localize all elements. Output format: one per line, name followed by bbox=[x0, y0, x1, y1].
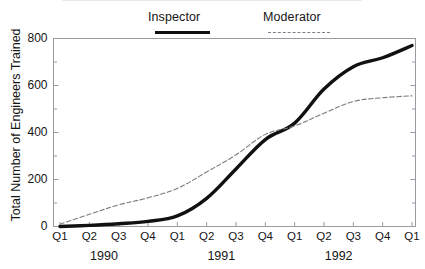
x-axis-year-label: 1990 bbox=[74, 249, 134, 263]
x-tick-label: Q4 bbox=[135, 230, 161, 242]
y-tick-label: 600 bbox=[8, 78, 48, 92]
legend-label-inspector: Inspector bbox=[148, 10, 200, 24]
x-tick-label: Q2 bbox=[76, 230, 102, 242]
y-tick-label: 400 bbox=[8, 125, 48, 139]
x-tick-label: Q1 bbox=[164, 230, 190, 242]
x-tick-label: Q1 bbox=[399, 230, 425, 242]
chart-figure: Inspector Moderator Total Number of Engi… bbox=[0, 0, 425, 269]
x-tick-label: Q4 bbox=[252, 230, 278, 242]
x-axis-year-label: 1992 bbox=[309, 249, 369, 263]
x-tick-label: Q1 bbox=[47, 230, 73, 242]
y-tick-label: 0 bbox=[8, 219, 48, 233]
x-tick-label: Q1 bbox=[282, 230, 308, 242]
x-tick-label: Q3 bbox=[106, 230, 132, 242]
x-tick-label: Q4 bbox=[370, 230, 396, 242]
legend-swatch-moderator bbox=[268, 32, 330, 33]
y-tick-label: 800 bbox=[8, 31, 48, 45]
y-tick-label: 200 bbox=[8, 172, 48, 186]
scan-artifact-line bbox=[62, 0, 362, 1]
plot-frame bbox=[54, 39, 416, 227]
x-tick-label: Q3 bbox=[340, 230, 366, 242]
x-axis-year-label: 1991 bbox=[191, 249, 251, 263]
series-line-inspector bbox=[60, 46, 412, 227]
x-tick-label: Q2 bbox=[311, 230, 337, 242]
legend-label-moderator: Moderator bbox=[263, 10, 321, 24]
series-line-moderator bbox=[60, 96, 412, 224]
x-tick-label: Q2 bbox=[194, 230, 220, 242]
x-tick-label: Q3 bbox=[223, 230, 249, 242]
legend-swatch-inspector bbox=[155, 31, 210, 34]
